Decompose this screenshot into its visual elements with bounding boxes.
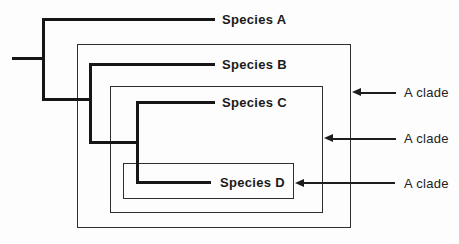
species-c-branch-line xyxy=(136,101,215,104)
cd-node-vertical-line xyxy=(136,101,139,184)
species-d-label: Species D xyxy=(220,176,285,190)
clade-bcd-annotation-label: A clade xyxy=(404,85,449,100)
species-a-branch-line xyxy=(42,18,215,21)
species-b-branch-line xyxy=(89,63,215,66)
cladogram-figure: Species A Species B Species C Species D … xyxy=(0,0,459,244)
bcd-node-connector-line xyxy=(42,98,92,101)
cd-node-connector-line xyxy=(89,141,139,144)
clade-cd-arrow-shaft xyxy=(332,138,396,140)
species-b-label: Species B xyxy=(222,58,287,72)
species-d-branch-line xyxy=(136,181,211,184)
root-stem-line xyxy=(12,57,44,60)
clade-bcd-arrow-shaft xyxy=(360,92,396,94)
bcd-node-vertical-line xyxy=(89,63,92,144)
clade-cd-annotation-label: A clade xyxy=(404,131,449,146)
root-node-vertical-line xyxy=(42,18,45,101)
clade-d-annotation-label: A clade xyxy=(404,176,449,191)
clade-d-arrow-shaft xyxy=(303,182,395,184)
species-a-label: Species A xyxy=(222,13,286,27)
species-c-label: Species C xyxy=(222,96,287,110)
